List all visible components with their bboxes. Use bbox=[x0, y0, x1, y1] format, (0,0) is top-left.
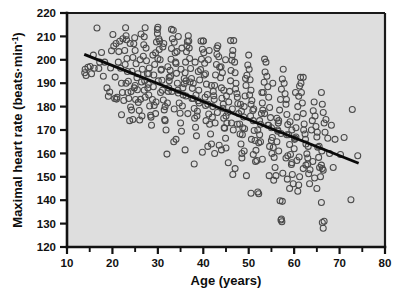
x-axis-tick-label: 70 bbox=[333, 257, 346, 269]
y-axis-tick-label: 170 bbox=[37, 124, 56, 136]
y-axis-tick-label: 120 bbox=[37, 241, 56, 253]
x-axis-tick-label: 20 bbox=[106, 257, 119, 269]
x-axis-title: Age (years) bbox=[191, 273, 262, 288]
y-axis-tick-label: 220 bbox=[37, 7, 56, 19]
y-axis-tick-label: 140 bbox=[37, 194, 56, 206]
y-axis-tick-label: 190 bbox=[37, 77, 56, 89]
max-heart-rate-scatter-figure: 120130140150160170180190200210220 102030… bbox=[0, 0, 412, 297]
x-axis-tick-label: 10 bbox=[61, 257, 74, 269]
y-axis-tick-label: 200 bbox=[37, 54, 56, 66]
y-axis-tick-label: 180 bbox=[37, 101, 56, 113]
y-axis-title: Maximal heart rate (beats·min-1) bbox=[10, 32, 25, 227]
x-axis-tick-label: 60 bbox=[288, 257, 301, 269]
x-axis-tick-label: 80 bbox=[379, 257, 392, 269]
x-axis-tick-label: 40 bbox=[197, 257, 210, 269]
x-axis-tick-label: 50 bbox=[242, 257, 255, 269]
y-axis-tick-label: 160 bbox=[37, 148, 56, 160]
y-axis-tick-label: 150 bbox=[37, 171, 56, 183]
y-axis-tick-label: 130 bbox=[37, 218, 56, 230]
y-axis-title-main: Maximal heart rate (beats·min bbox=[10, 44, 25, 228]
y-axis-title-close-paren: ) bbox=[10, 32, 25, 36]
y-axis-tick-label: 210 bbox=[37, 31, 56, 43]
x-axis-tick-label: 30 bbox=[151, 257, 164, 269]
chart-canvas: 120130140150160170180190200210220 102030… bbox=[0, 0, 412, 297]
